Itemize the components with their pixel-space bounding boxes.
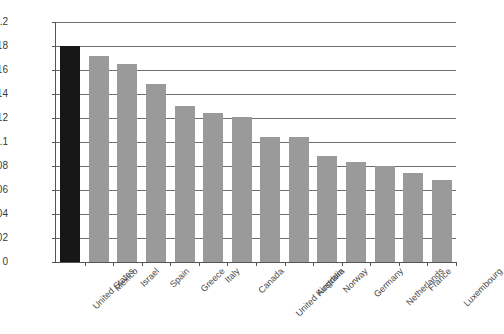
- x-tick-label: Israel: [139, 266, 162, 289]
- x-tick-mark: [399, 262, 400, 266]
- y-tick-mark: [52, 262, 56, 263]
- x-tick-label: Australia: [314, 266, 346, 298]
- y-tick-mark: [52, 142, 56, 143]
- x-tick-mark: [370, 262, 371, 266]
- bar: [432, 180, 452, 262]
- bar: [403, 173, 423, 262]
- y-tick-mark: [52, 238, 56, 239]
- gridline: [56, 190, 456, 191]
- gridline: [56, 46, 456, 47]
- y-tick-mark: [52, 94, 56, 95]
- y-tick-label: 0: [2, 257, 8, 267]
- bar: [260, 137, 280, 262]
- bar: [60, 46, 80, 262]
- bar: [146, 84, 166, 262]
- gridline: [56, 94, 456, 95]
- y-tick-label: 0.02: [0, 233, 8, 243]
- bar: [232, 117, 252, 262]
- y-tick-mark: [52, 190, 56, 191]
- x-tick-label: Italy: [223, 266, 242, 285]
- y-tick-label: 0.08: [0, 161, 8, 171]
- plot-area: [55, 22, 456, 263]
- bar: [317, 156, 337, 262]
- gridline: [56, 118, 456, 119]
- y-tick-mark: [52, 166, 56, 167]
- x-tick-mark: [256, 262, 257, 266]
- y-tick-label: 0.12: [0, 113, 8, 123]
- y-tick-mark: [52, 214, 56, 215]
- bar: [203, 113, 223, 262]
- bar: [175, 106, 195, 262]
- x-tick-label: Norway: [341, 266, 370, 295]
- y-tick-label: 0.04: [0, 209, 8, 219]
- y-tick-label: 0.16: [0, 65, 8, 75]
- x-tick-mark: [342, 262, 343, 266]
- x-tick-mark: [170, 262, 171, 266]
- x-tick-mark: [227, 262, 228, 266]
- gridline: [56, 238, 456, 239]
- y-tick-label: 0.06: [0, 185, 8, 195]
- bar: [346, 162, 366, 262]
- x-tick-label: Spain: [168, 266, 191, 289]
- x-tick-mark: [113, 262, 114, 266]
- x-tick-mark: [313, 262, 314, 266]
- x-tick-mark: [427, 262, 428, 266]
- gridline: [56, 166, 456, 167]
- y-tick-mark: [52, 22, 56, 23]
- y-tick-label: 0.18: [0, 41, 8, 51]
- y-tick-label: 0.2: [0, 17, 8, 27]
- x-tick-mark: [85, 262, 86, 266]
- x-tick-mark: [142, 262, 143, 266]
- y-tick-label: 0.1: [0, 137, 8, 147]
- x-tick-label: Germany: [372, 266, 405, 299]
- gridline: [56, 70, 456, 71]
- bar: [375, 166, 395, 262]
- gridline: [56, 142, 456, 143]
- bar: [117, 64, 137, 262]
- gridline: [56, 214, 456, 215]
- x-tick-label: Greece: [198, 266, 226, 294]
- y-tick-label: 0.14: [0, 89, 8, 99]
- y-tick-mark: [52, 46, 56, 47]
- y-tick-mark: [52, 70, 56, 71]
- gridline: [56, 22, 456, 23]
- x-tick-mark: [456, 262, 457, 266]
- x-tick-label: Luxembourg: [461, 266, 503, 308]
- x-tick-label: Canada: [256, 266, 285, 295]
- bar: [89, 56, 109, 262]
- bar: [289, 137, 309, 262]
- x-tick-mark: [199, 262, 200, 266]
- y-tick-mark: [52, 118, 56, 119]
- x-tick-mark: [285, 262, 286, 266]
